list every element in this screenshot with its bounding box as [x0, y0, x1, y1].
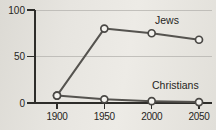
chart-canvas: 0501001900195020002050JewsChristians — [0, 0, 216, 130]
series-line-christians — [57, 96, 199, 103]
y-tick-label: 50 — [14, 51, 26, 62]
series-label-christians: Christians — [152, 79, 199, 91]
x-tick-label: 2050 — [188, 111, 210, 122]
data-point-christians-1900 — [54, 92, 61, 99]
y-tick-label: 100 — [8, 5, 25, 16]
data-point-christians-2050 — [196, 99, 203, 106]
population-line-chart: 0501001900195020002050JewsChristians — [0, 0, 216, 130]
x-tick-label: 2000 — [141, 111, 163, 122]
data-point-jews-2000 — [148, 30, 155, 37]
data-point-christians-1950 — [101, 96, 108, 103]
x-tick-label: 1900 — [46, 111, 68, 122]
x-tick-label: 1950 — [94, 111, 116, 122]
data-point-jews-2050 — [196, 36, 203, 43]
series-label-jews: Jews — [155, 14, 179, 26]
y-tick-label: 0 — [19, 98, 25, 109]
data-point-christians-2000 — [148, 98, 155, 105]
data-point-jews-1950 — [101, 25, 108, 32]
